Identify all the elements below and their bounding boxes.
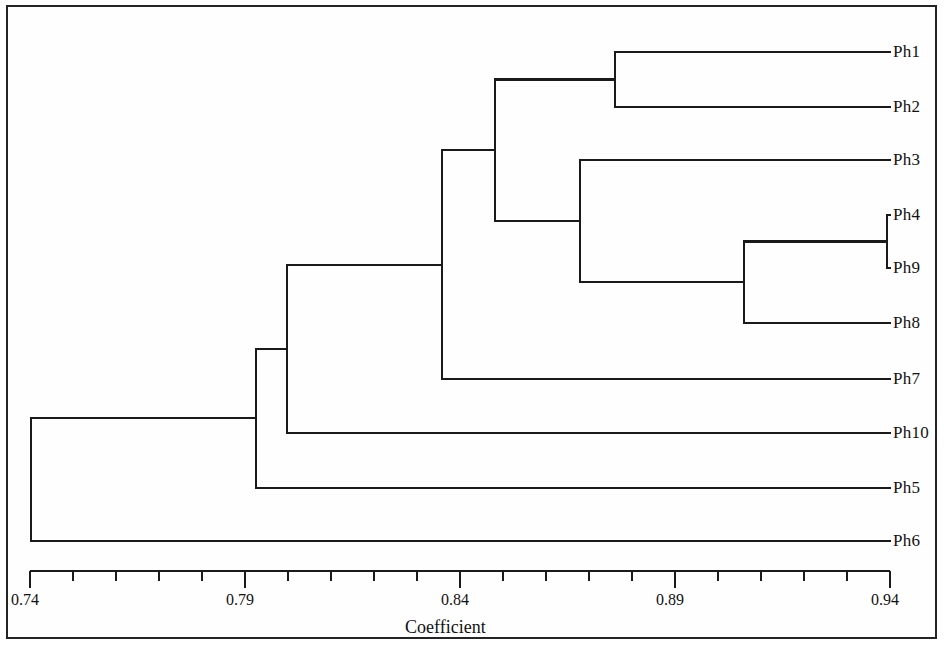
leaf-label-ph7: Ph7 [893,370,920,387]
leaf-label-ph10: Ph10 [893,424,929,441]
axis-title: Coefficient [405,618,486,636]
axis-tick-label-0.94: 0.94 [871,592,899,608]
dendrogram-plot [0,0,951,656]
leaf-label-ph6: Ph6 [893,532,920,549]
leaf-label-ph1: Ph1 [893,43,920,60]
leaf-label-ph8: Ph8 [893,314,920,331]
axis-tick-label-0.74: 0.74 [11,592,39,608]
axis-tick-label-0.89: 0.89 [656,592,684,608]
axis-tick-label-0.79: 0.79 [226,592,254,608]
leaf-label-ph2: Ph2 [893,98,920,115]
leaf-label-ph9: Ph9 [893,259,920,276]
axis-tick-label-0.84: 0.84 [441,592,469,608]
leaf-label-ph5: Ph5 [893,479,920,496]
coefficient-axis [30,571,890,588]
leaf-label-ph3: Ph3 [893,151,920,168]
dendrogram-figure: Ph1Ph2Ph3Ph4Ph9Ph8Ph7Ph10Ph5Ph6 0.740.79… [0,0,951,656]
leaf-label-ph4: Ph4 [893,206,920,223]
dendrogram-branches [31,52,890,541]
